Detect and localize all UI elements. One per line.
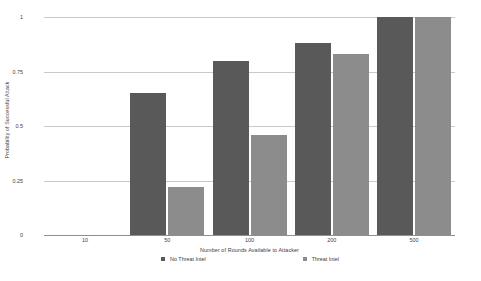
bar-group bbox=[291, 17, 373, 235]
bar-group bbox=[126, 17, 208, 235]
legend-item[interactable]: Threat Intel bbox=[302, 256, 339, 262]
bar[interactable] bbox=[295, 43, 331, 235]
bar-chart: Probability of Successful Attack 00.250.… bbox=[0, 0, 481, 281]
x-axis-tick-label: 200 bbox=[291, 237, 373, 243]
y-axis-tick-label: 0 bbox=[0, 232, 23, 238]
x-axis-tick-label: 50 bbox=[126, 237, 208, 243]
y-axis-tick-label: 1 bbox=[0, 14, 23, 20]
legend-item[interactable]: No Threat Intel bbox=[160, 256, 206, 262]
bar[interactable] bbox=[251, 135, 287, 235]
y-axis-tick-label: 0.75 bbox=[0, 69, 23, 75]
gridline bbox=[44, 235, 455, 236]
legend-label: Threat Intel bbox=[312, 256, 339, 262]
bar-group bbox=[373, 17, 455, 235]
legend-label: No Threat Intel bbox=[170, 256, 206, 262]
x-axis-tick-label: 100 bbox=[208, 237, 290, 243]
y-axis-tick-label: 0.25 bbox=[0, 178, 23, 184]
bar-series-layer bbox=[44, 17, 455, 235]
bar[interactable] bbox=[415, 17, 451, 235]
bar[interactable] bbox=[377, 17, 413, 235]
plot-area: 00.250.50.751 bbox=[44, 17, 455, 235]
x-axis-tick-label: 10 bbox=[44, 237, 126, 243]
chart-legend: No Threat IntelThreat Intel bbox=[44, 256, 455, 262]
x-axis-title: Number of Rounds Available to Attacker bbox=[44, 247, 455, 253]
y-axis-title: Probability of Successful Attack bbox=[0, 0, 14, 240]
bar-group bbox=[208, 17, 290, 235]
x-axis-tick-label: 500 bbox=[373, 237, 455, 243]
bar-group bbox=[44, 17, 126, 235]
bar[interactable] bbox=[130, 93, 166, 235]
legend-swatch-icon bbox=[160, 256, 166, 262]
y-axis-title-label: Probability of Successful Attack bbox=[4, 82, 10, 159]
y-axis-tick-label: 0.5 bbox=[0, 123, 23, 129]
x-axis-tick-labels: 1050100200500 bbox=[44, 237, 455, 243]
bar[interactable] bbox=[333, 54, 369, 235]
bar[interactable] bbox=[168, 187, 204, 235]
legend-swatch-icon bbox=[302, 256, 308, 262]
bar[interactable] bbox=[213, 61, 249, 235]
